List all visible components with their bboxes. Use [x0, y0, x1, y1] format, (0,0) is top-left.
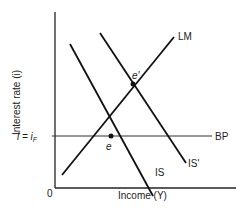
- is-shifted-curve: [100, 33, 186, 163]
- bp-label: BP: [215, 131, 229, 142]
- lm-curve: [62, 37, 174, 175]
- is-label: IS: [155, 167, 165, 178]
- lm-label: LM: [178, 31, 192, 42]
- point-e-prime-label: e': [132, 70, 141, 81]
- point-e-prime-marker: [131, 82, 136, 87]
- is-curve: [70, 44, 153, 196]
- point-e-marker: [109, 134, 114, 139]
- point-e-label: e: [106, 141, 112, 152]
- origin-label: 0: [47, 188, 53, 199]
- x-axis-label: Income (Y): [118, 190, 167, 201]
- is-lm-bp-diagram: LM BP IS IS' e e' i = iF 0 Income (Y) In…: [0, 0, 244, 212]
- y-axis-label: Interest rate (i): [11, 70, 22, 135]
- is-shifted-label: IS': [188, 158, 199, 169]
